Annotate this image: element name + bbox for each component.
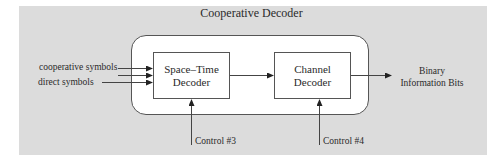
control-4-label: Control #4 (323, 136, 364, 146)
output-label-line2: Information Bits (392, 77, 472, 89)
control-3-label: Control #3 (195, 136, 236, 146)
input-label-direct-symbols: direct symbols (38, 77, 94, 87)
output-label-line1: Binary (392, 65, 472, 77)
input-label-cooperative-symbols: cooperative symbols (39, 62, 117, 72)
output-label: Binary Information Bits (392, 65, 472, 89)
